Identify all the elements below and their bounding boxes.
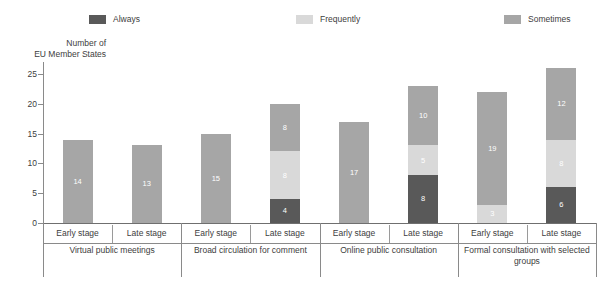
y-axis-label-15: 15: [15, 129, 37, 139]
y-axis-tick-15: [38, 134, 43, 135]
group-separator-0: [43, 223, 44, 277]
stage-divider: [389, 225, 390, 243]
group-separator-end: [596, 223, 597, 277]
bar-segment-sometimes: 14: [63, 140, 93, 223]
category-axis: Early stageLate stageVirtual public meet…: [43, 223, 596, 277]
stage-divider: [250, 225, 251, 243]
y-axis-label-5: 5: [15, 188, 37, 198]
bar-segment-always: 4: [270, 199, 300, 223]
stage-label-late[interactable]: Late stage: [527, 223, 596, 243]
group-label-0: Virtual public meetings: [43, 245, 181, 256]
stage-label-early[interactable]: Early stage: [181, 223, 250, 243]
group-separator-2: [320, 223, 321, 277]
stage-label-late[interactable]: Late stage: [389, 223, 458, 243]
bar-segment-frequently: 8: [546, 140, 576, 188]
category-group-2: Early stageLate stageOnline public consu…: [320, 223, 458, 277]
stage-label-late[interactable]: Late stage: [250, 223, 319, 243]
bar-segment-sometimes: 15: [201, 134, 231, 223]
bar-0[interactable]: 14: [63, 140, 93, 223]
y-axis-tick-10: [38, 163, 43, 164]
stage-label-late[interactable]: Late stage: [112, 223, 181, 243]
stage-divider: [527, 225, 528, 243]
group-label-2: Online public consultation: [320, 245, 458, 256]
group-separator-3: [458, 223, 459, 277]
bar-segment-sometimes: 17: [339, 122, 369, 223]
group-label-3: Formal consultation with selected groups: [458, 245, 596, 267]
bar-5[interactable]: 8510: [408, 86, 438, 223]
bar-segment-frequently: 3: [477, 205, 507, 223]
category-group-1: Early stageLate stageBroad circulation f…: [181, 223, 319, 277]
bar-2[interactable]: 15: [201, 134, 231, 223]
y-axis-label-10: 10: [15, 158, 37, 168]
bar-segment-sometimes: 19: [477, 92, 507, 205]
bar-7[interactable]: 6812: [546, 68, 576, 223]
bar-6[interactable]: 319: [477, 92, 507, 223]
stage-divider: [112, 225, 113, 243]
y-axis-label-0: 0: [15, 218, 37, 228]
bar-segment-sometimes: 12: [546, 68, 576, 140]
bar-segment-sometimes: 8: [270, 104, 300, 152]
category-group-3: Early stageLate stageFormal consultation…: [458, 223, 596, 277]
stage-label-early[interactable]: Early stage: [43, 223, 112, 243]
y-axis-tick-5: [38, 193, 43, 194]
stage-label-early[interactable]: Early stage: [458, 223, 527, 243]
group-separator-1: [181, 223, 182, 277]
y-axis-tick-20: [38, 104, 43, 105]
stage-label-early[interactable]: Early stage: [320, 223, 389, 243]
bar-segment-frequently: 8: [270, 151, 300, 199]
bar-4[interactable]: 17: [339, 122, 369, 223]
bar-segment-always: 8: [408, 175, 438, 223]
y-axis-label-20: 20: [15, 99, 37, 109]
group-underline: [181, 243, 319, 244]
group-underline: [43, 243, 181, 244]
bar-segment-frequently: 5: [408, 145, 438, 175]
group-underline: [458, 243, 596, 244]
group-underline: [320, 243, 458, 244]
bar-segment-always: 6: [546, 187, 576, 223]
bar-3[interactable]: 488: [270, 104, 300, 223]
group-label-1: Broad circulation for comment: [181, 245, 319, 256]
category-group-0: Early stageLate stageVirtual public meet…: [43, 223, 181, 277]
y-axis-line: [43, 62, 44, 223]
bar-segment-sometimes: 13: [132, 145, 162, 223]
bar-1[interactable]: 13: [132, 145, 162, 223]
y-axis-label-25: 25: [15, 69, 37, 79]
y-axis-tick-25: [38, 74, 43, 75]
bar-segment-sometimes: 10: [408, 86, 438, 146]
